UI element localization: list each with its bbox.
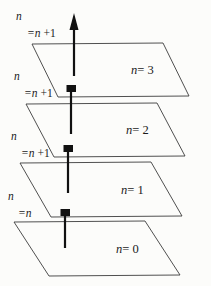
plane-label-n2-value: = 2 xyxy=(132,123,148,137)
plane-label-n0: n= 0 xyxy=(116,243,139,256)
plane-label-n0-value: = 0 xyxy=(122,242,138,256)
transition-label-1-line2: =n +1 xyxy=(21,148,50,160)
transition-arrow-head-square-1 xyxy=(64,145,74,152)
planes-diagram-svg xyxy=(0,0,211,286)
plane-label-n3: n= 3 xyxy=(131,64,154,77)
transition-label-2-n: n xyxy=(14,70,20,82)
plane-label-n3-value: = 3 xyxy=(137,63,153,77)
transition-label-3-line2: =n +1 xyxy=(27,28,56,40)
plane-label-n1: n= 1 xyxy=(121,184,144,197)
transition-label-1-op: +1 xyxy=(35,147,50,159)
transition-label-0-line1: n xyxy=(8,191,14,203)
transition-label-1-line1: n xyxy=(11,131,17,143)
transition-label-3-n: n xyxy=(16,10,22,22)
transition-label-1-n: n xyxy=(11,130,17,142)
plane-outline-n3 xyxy=(32,43,189,97)
plane-label-n1-value: = 1 xyxy=(127,183,143,197)
transition-label-2-line2: =n +1 xyxy=(24,88,53,100)
transition-label-0-line2: =n xyxy=(18,208,32,220)
transition-label-3-eq: =n xyxy=(27,27,41,39)
transition-label-2-op: +1 xyxy=(38,87,53,99)
transition-arrow-head-triangle-3 xyxy=(70,13,79,30)
transition-arrow-head-square-2 xyxy=(67,85,77,92)
transition-label-1-eq: =n xyxy=(21,147,35,159)
plane-label-n2: n= 2 xyxy=(126,124,149,137)
transition-label-3-line1: n xyxy=(16,11,22,23)
transition-label-2-eq: =n xyxy=(24,87,38,99)
transition-arrow-head-square-0 xyxy=(61,209,71,216)
transition-label-0-eq: =n xyxy=(18,207,32,219)
plane-outline-n0 xyxy=(14,221,180,276)
plane-outline-n1 xyxy=(20,162,182,217)
transition-label-0-n: n xyxy=(8,190,14,202)
transition-label-2-line1: n xyxy=(14,71,20,83)
transition-label-3-op: +1 xyxy=(41,27,56,39)
figure-canvas: n= 3 n= 2 n= 1 n= 0 n =n +1 n =n +1 n =n… xyxy=(0,0,211,286)
